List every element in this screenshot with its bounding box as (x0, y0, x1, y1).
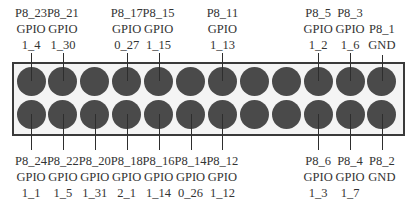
label-pin: P8_3 (328, 5, 372, 21)
label-func: GPIO (137, 21, 181, 37)
label-func: GPIO (41, 21, 85, 37)
top-pin-8 (240, 67, 269, 96)
label-num: 1_7 (328, 185, 372, 201)
label-num: 1_12 (200, 185, 244, 201)
pin-label-p8-21: P8_21GPIO1_30 (41, 5, 85, 53)
pin-label-p8-1: P8_1GND (360, 21, 404, 53)
label-num: 1_30 (41, 37, 85, 53)
bottom-pin-8 (240, 100, 269, 129)
label-pin: P8_15 (137, 5, 181, 21)
label-pin: P8_2 (360, 153, 404, 169)
pin-lead-line (350, 53, 351, 81)
pin-lead-line (31, 114, 32, 150)
label-func: GND (360, 37, 404, 53)
pin-lead-line (382, 114, 383, 150)
pin-lead-line (159, 53, 160, 81)
label-pin: P8_1 (360, 21, 404, 37)
label-pin: P8_12 (200, 153, 244, 169)
label-func: GPIO (200, 169, 244, 185)
pin-lead-line (350, 114, 351, 150)
pin-lead-line (31, 53, 32, 81)
pin-label-p8-2: P8_2GND (360, 153, 404, 185)
pin-label-p8-15: P8_15GPIO1_15 (137, 5, 181, 53)
pin-lead-line (191, 114, 192, 150)
pin-lead-line (382, 55, 383, 81)
pin-lead-line (222, 114, 223, 150)
top-pin-6 (176, 67, 205, 96)
pin-lead-line (63, 114, 64, 150)
pin-lead-line (318, 53, 319, 81)
label-pin: P8_21 (41, 5, 85, 21)
top-pin-9 (272, 67, 301, 96)
bottom-pin-9 (272, 100, 301, 129)
top-pin-3 (80, 67, 109, 96)
pin-label-p8-11: P8_11GPIO1_13 (200, 5, 244, 53)
pin-lead-line (95, 114, 96, 150)
pin-label-p8-12: P8_12GPIO1_12 (200, 153, 244, 201)
pin-lead-line (159, 114, 160, 150)
pin-lead-line (63, 53, 64, 81)
label-func: GPIO (200, 21, 244, 37)
pin-lead-line (222, 53, 223, 81)
pin-lead-line (318, 114, 319, 150)
pin-lead-line (127, 53, 128, 81)
label-num: 1_13 (200, 37, 244, 53)
label-func: GND (360, 169, 404, 185)
pin-lead-line (127, 114, 128, 150)
label-pin: P8_11 (200, 5, 244, 21)
label-num: 1_15 (137, 37, 181, 53)
